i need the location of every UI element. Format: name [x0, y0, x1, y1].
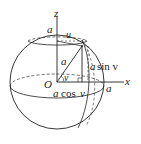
radius-a-label: a	[61, 55, 67, 67]
origin-label: O	[44, 78, 52, 90]
latitude-front	[28, 41, 87, 45]
z-label: z	[53, 7, 59, 19]
point-p	[81, 45, 83, 47]
diagram-canvas: z a u a v O x a sin v a cos v a	[0, 0, 141, 144]
sphere-diagram: z a u a v O x a sin v a cos v a	[0, 0, 141, 144]
right-angle-marker	[78, 78, 82, 82]
height-sin-label: sin v	[97, 60, 119, 72]
u-label: u	[66, 29, 71, 40]
meridian-front	[78, 40, 89, 128]
height-a-label: a	[90, 60, 96, 72]
v-angle-label: v	[64, 72, 69, 83]
base-a-label: a	[53, 87, 59, 99]
top-a-label: a	[47, 23, 53, 35]
base-cos-label: cos	[61, 87, 76, 99]
x-intercept-a-label: a	[106, 82, 112, 94]
base-v-label: v	[80, 87, 85, 99]
x-label: x	[124, 75, 130, 87]
